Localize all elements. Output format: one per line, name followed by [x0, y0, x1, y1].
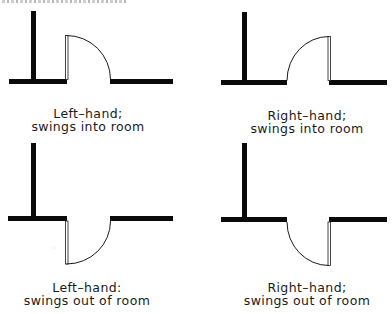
door-swing-arc — [67, 36, 111, 80]
caption-left-hand-out-of-room: Left–hand: swings out of room — [22, 281, 152, 307]
speck — [53, 247, 54, 248]
wall-left-segment — [8, 216, 67, 221]
door-swing-arc — [67, 221, 111, 264]
caption-line-2: swings out of room — [22, 294, 152, 307]
wall-left-segment — [9, 79, 67, 84]
panel-left-hand-out-of-room — [8, 143, 173, 264]
wall-right-segment — [329, 217, 387, 222]
caption-right-hand-into-room: Right–hand; swings into room — [247, 109, 367, 135]
door-leaf — [328, 37, 331, 81]
door-leaf — [66, 221, 69, 264]
caption-right-hand-out-of-room: Right–hand; swings out of room — [242, 281, 372, 307]
door-leaf — [328, 222, 331, 266]
wall-vertical — [242, 143, 247, 222]
panel-left-hand-into-room — [9, 11, 173, 84]
wall-right-segment — [110, 216, 173, 221]
panel-right-hand-out-of-room — [221, 143, 387, 266]
wall-left-segment — [221, 217, 287, 222]
door-swing-arc — [287, 37, 329, 81]
caption-line-2: swings out of room — [242, 294, 372, 307]
door-swing-arc — [287, 222, 329, 266]
wall-right-segment — [329, 80, 387, 85]
wall-vertical — [31, 143, 36, 221]
wall-left-segment — [221, 80, 287, 85]
wall-right-segment — [110, 79, 173, 84]
door-swing-diagram: Left–hand; swings into room Right–hand; … — [0, 0, 392, 314]
wall-vertical — [31, 11, 36, 84]
caption-left-hand-into-room: Left–hand; swings into room — [28, 107, 148, 133]
panel-right-hand-into-room — [221, 12, 387, 85]
caption-line-2: swings into room — [28, 120, 148, 133]
caption-line-2: swings into room — [247, 122, 367, 135]
door-leaf — [66, 36, 69, 80]
wall-vertical — [242, 12, 247, 85]
door-swing-drawing — [0, 0, 392, 314]
